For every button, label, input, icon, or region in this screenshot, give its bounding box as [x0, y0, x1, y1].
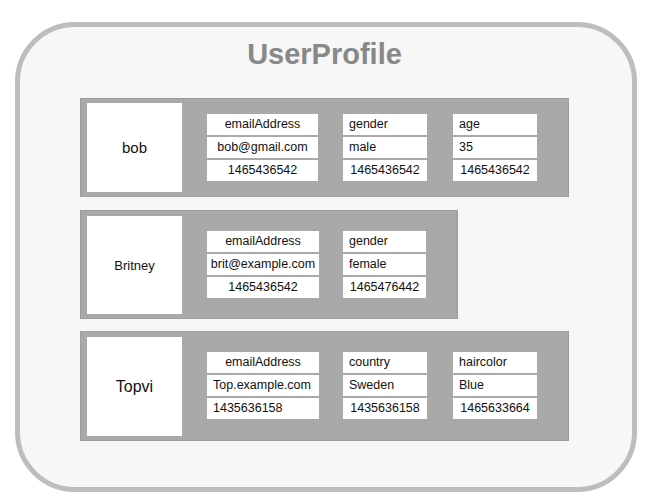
column-country: country Sweden 1435636158	[343, 352, 427, 419]
column-timestamp: 1435636158	[343, 398, 427, 419]
row-bob: bob emailAddress bob@gmail.com 146543654…	[80, 98, 569, 197]
column-timestamp: 1465476442	[343, 277, 426, 298]
column-timestamp: 1465436542	[207, 160, 318, 181]
column-name: gender	[343, 114, 427, 135]
column-name: country	[343, 352, 427, 373]
row-key: bob	[87, 103, 182, 192]
column-value: female	[343, 254, 426, 275]
column-name: gender	[343, 231, 426, 252]
column-gender: gender female 1465476442	[343, 231, 426, 298]
column-name: emailAddress	[207, 114, 318, 135]
column-name: emailAddress	[207, 231, 319, 252]
column-value: 35	[453, 137, 537, 158]
column-timestamp: 1435636158	[207, 398, 319, 419]
column-family-title: UserProfile	[0, 38, 649, 71]
column-name: emailAddress	[207, 352, 319, 373]
column-timestamp: 1465436542	[453, 160, 537, 181]
column-name: age	[453, 114, 537, 135]
column-value: male	[343, 137, 427, 158]
column-value: Sweden	[343, 375, 427, 396]
row-britney: Britney emailAddress brit@example.com 14…	[80, 210, 458, 319]
row-key: Topvi	[87, 337, 182, 436]
column-timestamp: 1465436542	[207, 277, 319, 298]
column-haircolor: haircolor Blue 1465633664	[453, 352, 537, 419]
row-key: Britney	[87, 216, 182, 314]
column-value: bob@gmail.com	[207, 137, 318, 158]
column-emailaddress: emailAddress bob@gmail.com 1465436542	[207, 114, 318, 181]
column-age: age 35 1465436542	[453, 114, 537, 181]
column-value: brit@example.com	[207, 254, 319, 275]
column-timestamp: 1465436542	[343, 160, 427, 181]
column-emailaddress: emailAddress brit@example.com 1465436542	[207, 231, 319, 298]
row-topvi: Topvi emailAddress Top.example.com 14356…	[80, 331, 569, 441]
column-name: haircolor	[453, 352, 537, 373]
column-gender: gender male 1465436542	[343, 114, 427, 181]
column-value: Blue	[453, 375, 537, 396]
column-timestamp: 1465633664	[453, 398, 537, 419]
column-value: Top.example.com	[207, 375, 319, 396]
column-emailaddress: emailAddress Top.example.com 1435636158	[207, 352, 319, 419]
